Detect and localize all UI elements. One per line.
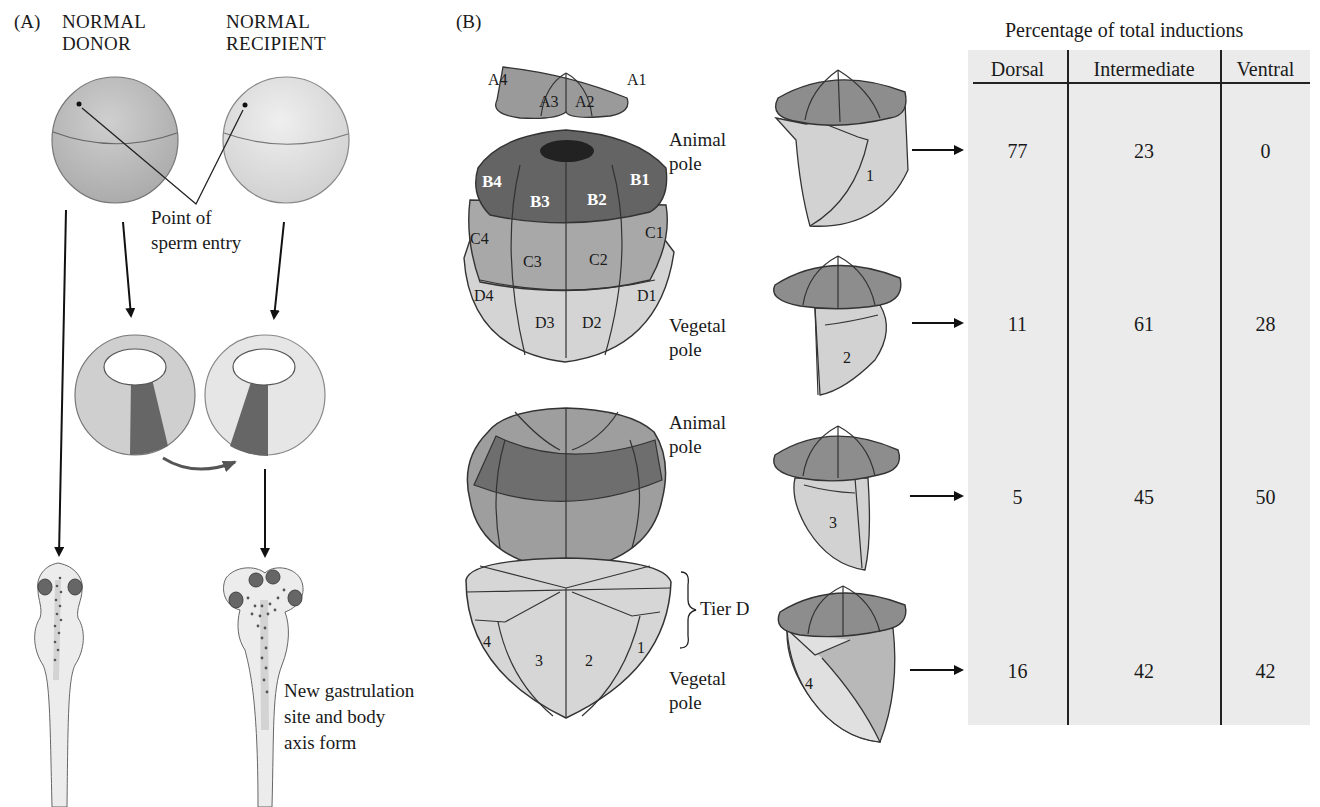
cell-explant-4-dorsal: 16 (968, 660, 1067, 683)
cell-explant-2-ventral: 28 (1221, 313, 1310, 336)
animal-pole-label-2-line1: Animal (669, 412, 726, 434)
animal-pole-label-1-line1: Animal (669, 129, 726, 151)
sperm-entry-label-line1: Point of (151, 207, 212, 229)
cell-label-b4: B4 (482, 171, 502, 193)
recipient-egg (223, 77, 349, 203)
explant-2 (774, 256, 901, 395)
panel-a-label: (A) (14, 11, 40, 33)
explant-4 (778, 586, 906, 742)
donor-egg (52, 77, 178, 203)
result-label-line2: site and body (284, 706, 385, 728)
donor-title-line2: DONOR (62, 33, 131, 55)
cell-label-b3: B3 (530, 191, 550, 213)
table-title: Percentage of total inductions (1005, 19, 1243, 42)
cleavage-embryo-intact (464, 130, 674, 362)
column-header-intermediate: Intermediate (1068, 58, 1220, 81)
result-label-line3: axis form (284, 732, 356, 754)
tier-d-cell-4: 4 (483, 631, 491, 653)
cell-label-a4: A4 (488, 69, 508, 91)
recipient-title-line1: NORMAL (226, 11, 310, 33)
cell-explant-1-intermediate: 23 (1068, 140, 1220, 163)
cell-label-c1: C1 (645, 222, 664, 244)
tier-d-label: Tier D (700, 598, 749, 620)
explant-3-number: 3 (829, 512, 837, 534)
result-label-line1: New gastrulation (284, 680, 414, 702)
tier-d-cell-1: 1 (637, 637, 645, 659)
cell-label-d1: D1 (637, 285, 657, 307)
vegetal-pole-label-2-line2: pole (669, 692, 702, 714)
explant-1-number: 1 (866, 165, 874, 187)
cell-explant-3-ventral: 50 (1221, 486, 1310, 509)
cell-explant-4-ventral: 42 (1221, 660, 1310, 683)
cell-label-b1: B1 (630, 169, 650, 191)
recipient-blastula-section (205, 335, 325, 456)
explant-4-number: 4 (805, 673, 813, 695)
vegetal-pole-label-2-line1: Vegetal (669, 668, 726, 690)
graft-transfer-arrow (163, 458, 235, 469)
vegetal-pole-label-1-line1: Vegetal (669, 315, 726, 337)
donor-short-arrow (123, 222, 131, 316)
cell-label-a2: A2 (575, 91, 595, 113)
cell-explant-2-intermediate: 61 (1068, 313, 1220, 336)
tier-d-cell-2: 2 (585, 650, 593, 672)
cell-label-d4: D4 (474, 285, 494, 307)
animal-pole-label-1-line2: pole (669, 153, 702, 175)
recipient-title-line2: RECIPIENT (226, 33, 326, 55)
donor-tadpole (35, 563, 84, 807)
table-header-rule (973, 82, 1310, 84)
donor-blastula-section (75, 335, 195, 455)
cleavage-embryo-exploded (466, 408, 671, 718)
sperm-entry-label-line2: sperm entry (151, 232, 241, 254)
tier-a-cap (496, 67, 628, 118)
cell-explant-1-ventral: 0 (1221, 140, 1310, 163)
donor-long-arrow (59, 210, 66, 555)
explant-1 (776, 70, 908, 226)
cell-explant-4-intermediate: 42 (1068, 660, 1220, 683)
donor-title-line1: NORMAL (62, 11, 146, 33)
cell-label-d3: D3 (535, 312, 555, 334)
cell-label-a1: A1 (627, 69, 647, 91)
tier-d-cell-3: 3 (535, 650, 543, 672)
cell-label-c2: C2 (589, 249, 608, 271)
cell-label-b2: B2 (587, 189, 607, 211)
cell-explant-3-intermediate: 45 (1068, 486, 1220, 509)
cell-explant-3-dorsal: 5 (968, 486, 1067, 509)
panel-b-label: (B) (456, 11, 481, 33)
animal-pole-label-2-line2: pole (669, 436, 702, 458)
tier-d-brace (680, 572, 696, 648)
cell-label-d2: D2 (582, 312, 602, 334)
cell-label-c4: C4 (470, 228, 489, 250)
cell-label-c3: C3 (523, 251, 542, 273)
column-header-ventral: Ventral (1221, 58, 1310, 81)
vegetal-pole-label-1-line2: pole (669, 339, 702, 361)
cell-label-a3: A3 (539, 91, 559, 113)
explant-2-number: 2 (843, 347, 851, 369)
cell-explant-1-dorsal: 77 (968, 140, 1067, 163)
explant-3 (774, 426, 900, 570)
recipient-short-arrow (274, 222, 284, 318)
column-header-dorsal: Dorsal (968, 58, 1067, 81)
cell-explant-2-dorsal: 11 (968, 313, 1067, 336)
